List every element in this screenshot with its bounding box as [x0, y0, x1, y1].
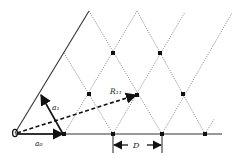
label-a0: a₀: [35, 139, 42, 148]
diagram-svg: a₁ a₀ R₁₁ D: [0, 0, 242, 160]
dotted-grid-lines: [64, 11, 232, 134]
label-r11: R₁₁: [109, 87, 122, 96]
lattice-diagram: a₁ a₀ R₁₁ D: [0, 0, 242, 160]
label-a1: a₁: [52, 103, 59, 112]
vector-a1-arrow: [41, 95, 63, 134]
label-d: D: [132, 141, 140, 150]
